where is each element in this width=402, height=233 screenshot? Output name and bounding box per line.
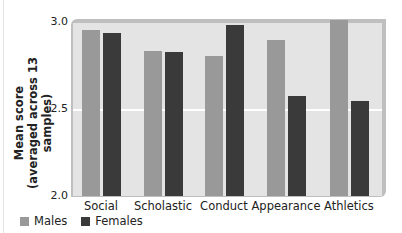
bar-scholastic-females xyxy=(165,52,183,196)
bar-conduct-females xyxy=(226,25,244,196)
y-axis-label: Mean score (averaged across 13 samples) xyxy=(12,38,52,208)
xtick-scholastic: Scholastic xyxy=(128,199,198,213)
legend-label-females: Females xyxy=(95,214,143,228)
bar-appearance-males xyxy=(267,40,285,196)
xtick-conduct: Conduct xyxy=(189,199,259,213)
bar-scholastic-males xyxy=(144,51,162,196)
y-axis-label-line2: (averaged across 13 samples) xyxy=(26,38,54,208)
bar-appearance-females xyxy=(288,96,306,196)
males-swatch-icon xyxy=(20,217,29,226)
bar-social-males xyxy=(82,30,100,196)
bar-conduct-males xyxy=(205,56,223,196)
y-axis-label-line1: Mean score xyxy=(12,38,26,208)
legend-item-males: Males xyxy=(20,214,67,228)
legend-label-males: Males xyxy=(34,214,67,228)
females-swatch-icon xyxy=(81,217,90,226)
xtick-athletics: Athletics xyxy=(314,199,384,213)
bar-social-females xyxy=(103,33,121,196)
legend: Males Females xyxy=(20,214,157,228)
xtick-appearance: Appearance xyxy=(251,199,321,213)
bar-athletics-males xyxy=(330,20,348,196)
bar-athletics-females xyxy=(351,101,369,196)
ytick-3-0: 3.0 xyxy=(38,15,68,28)
xtick-social: Social xyxy=(66,199,136,213)
legend-item-females: Females xyxy=(81,214,143,228)
page-edge-divider xyxy=(3,0,4,233)
